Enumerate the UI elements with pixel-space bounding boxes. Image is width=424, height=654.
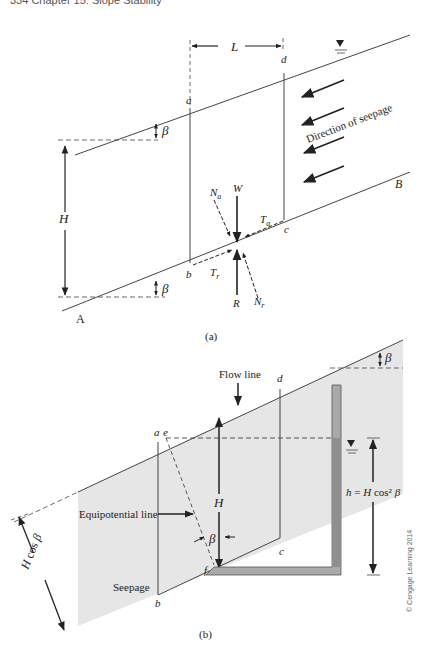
figure-a: L a d b c β H β A B Direction of seepage xyxy=(58,35,410,343)
force-Nr-arrow xyxy=(243,253,258,298)
label-beta-mid: β xyxy=(208,531,216,546)
label-Tr: Tr xyxy=(210,266,220,281)
label-e: e xyxy=(163,426,168,438)
label-beta-bottom: β xyxy=(161,281,169,296)
label-B: B xyxy=(395,177,403,191)
water-table-icon xyxy=(335,40,347,53)
label-H-cos-beta: H cos β xyxy=(17,532,44,572)
label-A: A xyxy=(76,312,85,326)
label-flow-line: Flow line xyxy=(219,368,261,380)
label-d: d xyxy=(281,53,287,65)
label-seepage: Seepage xyxy=(113,581,150,593)
force-Tr-arrow xyxy=(193,250,232,265)
label-H: H xyxy=(58,211,69,226)
copyright-credit: © Cengage Learning 2014 xyxy=(406,530,414,612)
label-c-b: c xyxy=(279,545,284,557)
label-beta-top: β xyxy=(161,123,169,138)
label-W: W xyxy=(233,182,243,194)
label-direction-of-seepage: Direction of seepage xyxy=(304,101,393,145)
top-surface-line xyxy=(75,35,410,155)
label-d-b: d xyxy=(277,372,283,384)
caption-a: (a) xyxy=(205,330,218,343)
label-equipotential-line: Equipotential line xyxy=(79,508,158,520)
label-Ta: Ta xyxy=(260,213,270,228)
figure-b: β Flow line a e d c b f H Equipotential … xyxy=(0,0,403,641)
label-b-b: b xyxy=(155,597,161,609)
label-L: L xyxy=(230,39,238,54)
label-Na: Na xyxy=(209,186,221,201)
label-c: c xyxy=(284,223,289,235)
slope-diagram: L a d b c β H β A B Direction of seepage xyxy=(0,0,424,654)
force-Na-arrow xyxy=(214,200,230,236)
caption-b: (b) xyxy=(199,628,212,641)
label-a-b: a xyxy=(154,426,160,438)
label-b: b xyxy=(186,268,192,280)
label-R: R xyxy=(232,297,240,309)
label-Nr: Nr xyxy=(253,295,265,310)
label-h-equation: h = H cos² β xyxy=(346,486,401,498)
label-a: a xyxy=(186,94,192,106)
piezometer-water xyxy=(332,438,341,567)
label-beta-top-b: β xyxy=(384,350,392,365)
label-H-b: H xyxy=(213,495,224,510)
